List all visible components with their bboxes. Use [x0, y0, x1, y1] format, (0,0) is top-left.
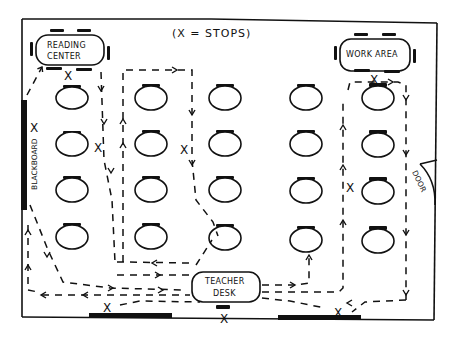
teacher-desk-label-1: TEACHER: [204, 277, 245, 286]
student-desk: [362, 83, 394, 110]
stop-marker: X: [180, 143, 188, 157]
work-area: WORK AREA: [334, 33, 416, 73]
legend-title: (X = STOPS): [172, 27, 251, 40]
student-desk: [135, 223, 167, 249]
stop-marker: X: [220, 312, 228, 326]
stop-marker: X: [370, 73, 378, 87]
blackboard-label: BLACKBOARD: [30, 138, 39, 190]
stop-marker: X: [94, 141, 102, 155]
student-desk: [209, 224, 241, 250]
work-area-label: WORK AREA: [346, 50, 398, 59]
reading-center-label-2: CENTER: [47, 52, 81, 61]
student-desk: [362, 177, 394, 204]
bottom-board-right: [278, 315, 361, 320]
classroom-diagram: BLACKBOARD DOOR (X = STOPS) READING CENT…: [0, 0, 452, 344]
stop-marker: X: [64, 69, 72, 83]
student-desk: [362, 226, 394, 253]
door-label: DOOR: [410, 169, 428, 193]
reading-center: READING CENTER: [30, 29, 110, 71]
student-desk: [56, 176, 88, 202]
stop-marker: X: [30, 121, 38, 135]
stop-marker: X: [103, 301, 111, 315]
stop-marker: X: [346, 181, 354, 195]
student-desk: [290, 84, 322, 110]
student-desk: [56, 85, 88, 109]
student-desk: [209, 84, 241, 110]
student-desk: [209, 130, 241, 156]
student-desk: [135, 130, 167, 156]
student-desk: [290, 130, 322, 156]
student-desk: [290, 226, 322, 252]
blackboard: [21, 100, 27, 210]
bottom-board-left: [89, 313, 172, 318]
reading-center-label-1: READING: [47, 41, 86, 50]
door: DOOR: [410, 160, 437, 205]
student-desk: [56, 131, 88, 156]
student-desk: [135, 176, 167, 202]
student-desk: [56, 223, 88, 249]
teacher-desk: TEACHER DESK: [192, 272, 260, 309]
teacher-desk-label-2: DESK: [213, 289, 236, 298]
student-desk: [135, 84, 167, 110]
student-desk: [362, 130, 394, 157]
student-desk: [209, 176, 241, 202]
stop-marker: X: [334, 306, 342, 320]
student-desk: [290, 177, 322, 203]
